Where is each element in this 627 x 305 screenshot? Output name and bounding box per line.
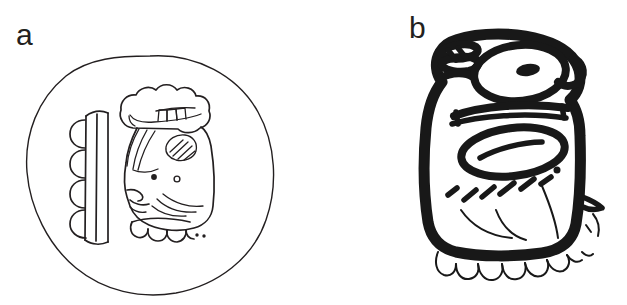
lobe-2: [70, 150, 85, 178]
brow-sweep: [133, 169, 158, 172]
headdress-tooth-2: [167, 109, 177, 121]
lobe-4: [70, 210, 86, 238]
hatch-dash-7: [554, 167, 561, 174]
bar-mid-edge: [96, 114, 97, 241]
ear-hatch-2: [173, 142, 188, 156]
bottom-tooth-3: [478, 264, 503, 280]
hatch-dash-3: [500, 183, 514, 194]
jaw-tooth-2: [148, 229, 167, 241]
glyph-a-drawing: [0, 0, 330, 305]
headdress-inner-band: [130, 114, 201, 122]
panel-b: b: [330, 0, 627, 305]
mid-band-group: [452, 105, 568, 124]
bar-left-edge: [85, 116, 86, 240]
lower-oval-inner-stroke: [480, 142, 542, 158]
mid-band-under: [452, 115, 566, 124]
eye-dot-open: [174, 176, 180, 182]
nose-profile: [127, 190, 143, 201]
bottom-tooth-4: [502, 263, 526, 279]
lobe-3: [70, 180, 85, 208]
eye-pupil: [515, 62, 540, 77]
right-spur-tail: [593, 214, 599, 236]
ear-hatch-1: [170, 140, 183, 152]
crest-stroke-3: [440, 73, 473, 78]
eye-dot-solid: [151, 174, 157, 180]
mid-band-tick-right: [562, 106, 564, 118]
scalloped-headdress-group: [120, 85, 210, 133]
panel-a: a: [0, 0, 330, 305]
hatch-dash-4: [521, 179, 534, 189]
jaw-teeth-top-edge: [132, 218, 190, 222]
hatch-dash-2: [482, 187, 494, 197]
cheek-curl-3: [163, 194, 203, 206]
headdress-tooth-1: [158, 110, 167, 121]
jaw-tooth-3: [167, 230, 186, 242]
hatch-dash-6: [448, 188, 457, 195]
jaw-tooth-1: [131, 222, 148, 238]
figure-root: a: [0, 0, 627, 305]
glyph-b-drawing: [330, 0, 627, 305]
lobe-1: [70, 120, 85, 148]
double-vertical-bar-group: [85, 111, 108, 244]
lower-oval: [458, 122, 567, 182]
upper-eye-group: [471, 40, 568, 105]
bottom-tooth-2: [456, 264, 479, 279]
lower-oval-group: [458, 122, 567, 182]
hatched-ear-ornament-group: [166, 135, 197, 161]
bottom-tooth-8: [582, 252, 593, 256]
bottom-tooth-6: [547, 255, 569, 271]
hatch-dash-1: [464, 190, 476, 200]
jaw-tooth-4: [186, 230, 194, 239]
mid-band-tick-left: [456, 112, 458, 124]
jaw-teeth-group: [131, 194, 203, 242]
lobe-column-group: [70, 120, 86, 238]
circular-cartouche-path: [27, 56, 274, 295]
speech-dot-2: [202, 234, 205, 237]
bottom-tooth-5: [525, 260, 548, 276]
hatch-dash-5: [541, 177, 551, 184]
speech-dot-1: [195, 233, 198, 236]
curved-jaw-line-group: [461, 186, 558, 240]
brow-line-3: [138, 131, 155, 170]
curved-jaw-line-3: [542, 186, 558, 238]
ear-hatch-3: [178, 146, 192, 159]
right-spur-tick: [586, 225, 591, 232]
